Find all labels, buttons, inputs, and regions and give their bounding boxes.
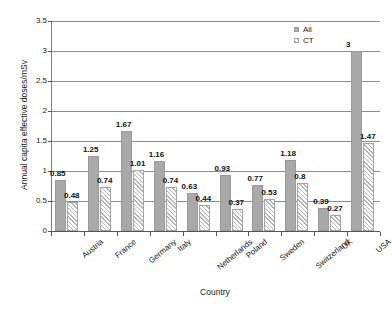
bar-ct xyxy=(264,199,275,231)
bar-ct xyxy=(100,187,111,231)
bar-ct xyxy=(297,183,308,231)
y-tick-label: 0.5 xyxy=(36,197,47,205)
bar-ct xyxy=(232,209,243,231)
bar-value-label-all: 0.77 xyxy=(247,175,263,183)
bar-all xyxy=(121,131,132,231)
x-tick-mark xyxy=(51,232,52,236)
x-category-label: Italy xyxy=(177,238,193,254)
legend-item-ct: CT xyxy=(294,35,314,46)
y-tick-label: 1 xyxy=(43,167,47,175)
bar-ct xyxy=(133,170,144,231)
bar-ct xyxy=(199,205,210,231)
bar-value-label-all: 1.16 xyxy=(149,151,165,159)
bar-value-label-all: 0.63 xyxy=(182,183,198,191)
bar-group: 0.390.27 xyxy=(314,21,347,231)
bar-group: 31.47 xyxy=(347,21,380,231)
bar-value-label-all: 1.67 xyxy=(116,121,132,129)
x-tick-mark xyxy=(281,232,282,236)
x-tick-mark xyxy=(117,232,118,236)
x-tick-mark xyxy=(150,232,151,236)
bar-value-label-ct: 0.37 xyxy=(229,199,245,207)
x-category-label: Sweden xyxy=(279,238,306,263)
legend-label-ct: CT xyxy=(303,35,314,46)
legend-item-all: All xyxy=(294,24,314,35)
bar-value-label-ct: 1.01 xyxy=(130,160,146,168)
bar-value-label-all: 1.25 xyxy=(83,146,99,154)
x-tick-mark xyxy=(216,232,217,236)
x-tick-mark xyxy=(314,232,315,236)
bar-value-label-ct: 0.74 xyxy=(97,177,113,185)
bar-value-label-ct: 1.47 xyxy=(360,133,376,141)
bar-all xyxy=(55,180,66,231)
y-tick-label: 0 xyxy=(43,227,47,235)
x-tick-mark xyxy=(84,232,85,236)
x-tick-mark xyxy=(380,232,381,236)
bar-group: 0.930.37 xyxy=(216,21,249,231)
bar-value-label-ct: 0.53 xyxy=(261,189,277,197)
y-axis-title: Annual capita effective doses/mSv xyxy=(19,25,29,225)
x-category-label: Austria xyxy=(81,238,105,260)
bar-group: 1.250.74 xyxy=(84,21,117,231)
bar-value-label-all: 3 xyxy=(346,41,350,49)
bar-value-label-ct: 0.48 xyxy=(64,192,80,200)
bar-ct xyxy=(330,215,341,231)
x-tick-mark xyxy=(347,232,348,236)
bar-all xyxy=(351,51,362,231)
bar-group: 1.180.8 xyxy=(281,21,314,231)
bar-group: 0.770.53 xyxy=(248,21,281,231)
legend-swatch-all-icon xyxy=(294,27,299,32)
bar-value-label-all: 1.18 xyxy=(280,150,296,158)
legend-swatch-ct-icon xyxy=(294,38,299,43)
x-category-label: Germany xyxy=(148,238,178,265)
legend-label-all: All xyxy=(303,24,312,35)
y-tick-label: 3 xyxy=(43,47,47,55)
bar-value-label-ct: 0.8 xyxy=(294,173,305,181)
bar-all xyxy=(88,156,99,231)
bar-ct xyxy=(166,187,177,231)
x-axis-title: Country xyxy=(50,287,380,297)
x-category-label: USA xyxy=(375,238,392,255)
bar-group: 1.671.01 xyxy=(117,21,150,231)
bar-all xyxy=(285,160,296,231)
x-category-label: France xyxy=(113,238,137,260)
bar-group: 0.630.44 xyxy=(183,21,216,231)
bar-value-label-all: 0.93 xyxy=(215,165,231,173)
x-tick-mark xyxy=(248,232,249,236)
bar-value-label-ct: 0.74 xyxy=(163,177,179,185)
y-tick-label: 3.5 xyxy=(36,17,47,25)
plot-area: 00.511.522.533.5 0.850.481.250.741.671.0… xyxy=(51,21,380,232)
y-tick-label: 2 xyxy=(43,107,47,115)
x-tick-mark xyxy=(183,232,184,236)
bars-layer: 0.850.481.250.741.671.011.160.740.630.44… xyxy=(51,21,380,232)
bar-value-label-ct: 0.27 xyxy=(327,205,343,213)
bar-ct xyxy=(363,143,374,231)
bar-group: 0.850.48 xyxy=(51,21,84,231)
y-tick-label: 2.5 xyxy=(36,77,47,85)
bar-group: 1.160.74 xyxy=(150,21,183,231)
bar-value-label-ct: 0.44 xyxy=(196,195,212,203)
legend: All CT xyxy=(294,24,314,46)
bar-value-label-all: 0.85 xyxy=(50,170,66,178)
bar-all xyxy=(154,161,165,231)
y-tick-label: 1.5 xyxy=(36,137,47,145)
bar-ct xyxy=(67,202,78,231)
